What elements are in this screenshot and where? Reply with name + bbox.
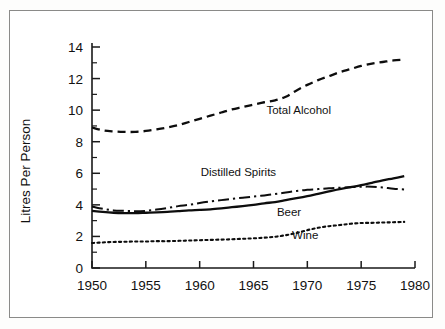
series-line-wine — [92, 222, 404, 243]
y-tick-label: 12 — [68, 72, 83, 87]
y-tick-label: 14 — [68, 40, 84, 55]
series-line-beer — [92, 176, 404, 213]
x-tick-label: 1970 — [292, 278, 322, 293]
line-chart-canvas: 024681012141950195519601965197019751980 … — [10, 11, 431, 316]
x-tick-label: 1980 — [400, 278, 430, 293]
chart-series-lines — [92, 60, 404, 243]
series-label-beer: Beer — [277, 206, 301, 218]
y-tick-label: 2 — [75, 229, 83, 244]
y-tick-label: 4 — [75, 198, 83, 213]
series-line-total-alcohol — [92, 60, 404, 132]
page-background: 024681012141950195519601965197019751980 … — [0, 0, 445, 329]
series-label-wine: Wine — [292, 229, 318, 241]
x-tick-label: 1960 — [185, 278, 215, 293]
y-axis-title: Litres Per Person — [18, 119, 33, 223]
y-tick-label: 8 — [75, 135, 83, 150]
y-tick-label: 0 — [75, 261, 83, 276]
series-label-total-alcohol: Total Alcohol — [266, 104, 331, 116]
chart-series-labels: Total AlcoholDistilled SpiritsBeerWine — [201, 104, 331, 241]
series-label-distilled-spirits: Distilled Spirits — [201, 166, 277, 178]
series-line-distilled-spirits — [92, 187, 404, 212]
x-tick-label: 1965 — [238, 278, 268, 293]
x-tick-label: 1950 — [77, 278, 107, 293]
chart-axes — [92, 43, 415, 268]
chart-figure-frame: 024681012141950195519601965197019751980 … — [9, 10, 433, 318]
y-tick-label: 10 — [68, 103, 83, 118]
x-tick-label: 1975 — [346, 278, 376, 293]
y-tick-label: 6 — [75, 166, 83, 181]
x-tick-label: 1955 — [131, 278, 161, 293]
